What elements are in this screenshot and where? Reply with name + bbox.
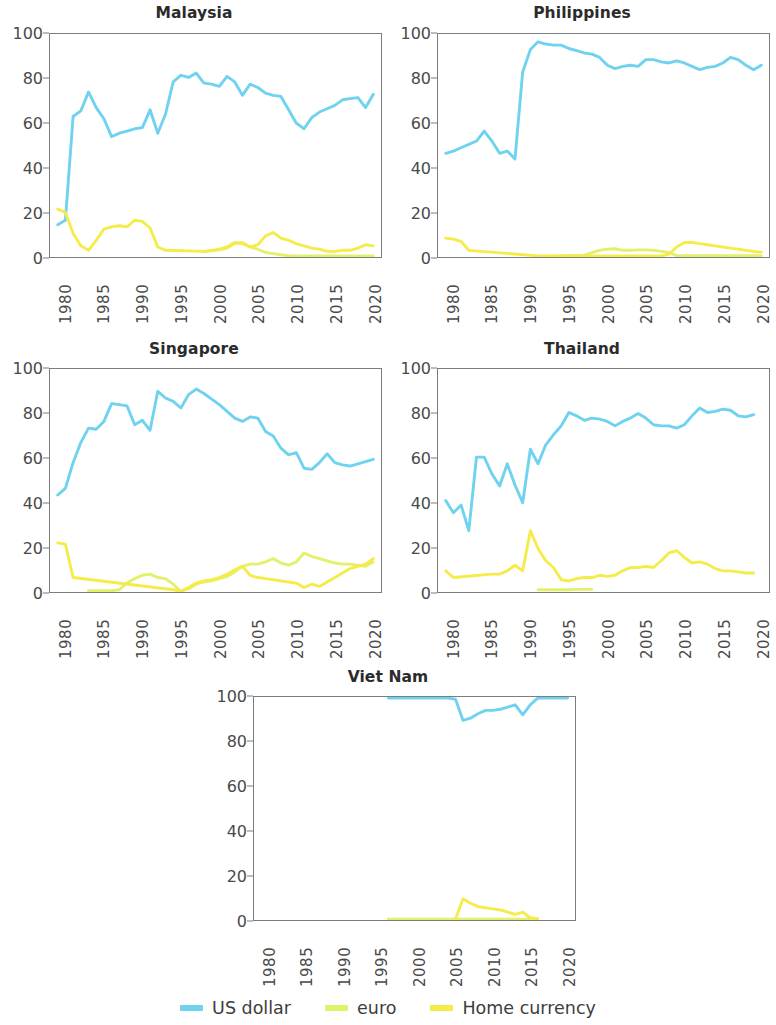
series-line-home-currency bbox=[446, 238, 762, 256]
plot-frame-singapore bbox=[49, 368, 382, 593]
y-tick-mark bbox=[431, 458, 437, 459]
series-line-us-dollar bbox=[388, 698, 567, 720]
y-tick-mark bbox=[431, 593, 437, 594]
x-tick-label: 2020 bbox=[755, 619, 773, 659]
y-tick-mark bbox=[43, 503, 49, 504]
y-tick-label: 0 bbox=[33, 249, 43, 268]
y-tick-label: 100 bbox=[12, 24, 43, 43]
x-tick-label: 1985 bbox=[483, 619, 501, 659]
x-tick-label: 1980 bbox=[445, 284, 463, 324]
series-line-us-dollar bbox=[446, 42, 762, 159]
y-tick-mark bbox=[431, 548, 437, 549]
plot-area-viet-nam: 0204060801001980198519901995200020052010… bbox=[253, 696, 576, 921]
x-tick-label: 2010 bbox=[289, 619, 307, 659]
legend-label-euro: euro bbox=[357, 998, 396, 1018]
y-tick-label: 60 bbox=[23, 449, 43, 468]
x-tick-label: 1985 bbox=[95, 619, 113, 659]
x-tick-label: 1990 bbox=[336, 947, 354, 987]
y-tick-mark bbox=[43, 123, 49, 124]
legend-item-euro[interactable]: euro bbox=[325, 998, 396, 1018]
y-tick-mark bbox=[247, 921, 253, 922]
x-tick-label: 1985 bbox=[95, 284, 113, 324]
plot-frame-thailand bbox=[437, 368, 770, 593]
y-tick-mark bbox=[43, 168, 49, 169]
series-line-home-currency bbox=[58, 543, 374, 591]
y-tick-mark bbox=[431, 123, 437, 124]
y-tick-label: 0 bbox=[421, 584, 431, 603]
x-tick-label: 2005 bbox=[250, 619, 268, 659]
x-tick-label: 1990 bbox=[134, 619, 152, 659]
x-tick-label: 1990 bbox=[522, 284, 540, 324]
x-tick-label: 2005 bbox=[638, 284, 656, 324]
y-tick-label: 80 bbox=[23, 404, 43, 423]
x-tick-label: 2000 bbox=[212, 619, 230, 659]
plot-area-thailand: 0204060801001980198519901995200020052010… bbox=[437, 368, 770, 593]
legend-item-home-currency[interactable]: Home currency bbox=[430, 998, 596, 1018]
legend-swatch-us-dollar bbox=[180, 1005, 203, 1011]
y-tick-mark bbox=[247, 786, 253, 787]
plot-frame-malaysia bbox=[49, 33, 382, 258]
x-tick-label: 1995 bbox=[561, 284, 579, 324]
x-tick-label: 1990 bbox=[522, 619, 540, 659]
x-tick-label: 2005 bbox=[638, 619, 656, 659]
x-tick-label: 2005 bbox=[448, 947, 466, 987]
legend-swatch-euro bbox=[325, 1005, 348, 1011]
y-tick-mark bbox=[431, 78, 437, 79]
y-tick-label: 20 bbox=[227, 867, 247, 886]
series-line-us-dollar bbox=[58, 73, 374, 225]
y-tick-label: 100 bbox=[12, 359, 43, 378]
x-tick-label: 1995 bbox=[373, 947, 391, 987]
y-tick-mark bbox=[431, 168, 437, 169]
plot-svg-philippines bbox=[438, 34, 769, 257]
series-line-home-currency bbox=[446, 531, 754, 581]
y-tick-label: 40 bbox=[411, 159, 431, 178]
x-tick-label: 1980 bbox=[445, 619, 463, 659]
x-tick-label: 2020 bbox=[755, 284, 773, 324]
y-tick-mark bbox=[43, 213, 49, 214]
y-tick-label: 100 bbox=[216, 687, 247, 706]
legend-item-us-dollar[interactable]: US dollar bbox=[180, 998, 291, 1018]
y-tick-label: 60 bbox=[411, 114, 431, 133]
y-tick-mark bbox=[431, 258, 437, 259]
x-tick-label: 2000 bbox=[212, 284, 230, 324]
x-tick-label: 1995 bbox=[173, 619, 191, 659]
x-tick-label: 2020 bbox=[367, 284, 385, 324]
y-tick-label: 80 bbox=[411, 404, 431, 423]
panel-title-malaysia: Malaysia bbox=[0, 4, 388, 22]
y-tick-label: 40 bbox=[23, 159, 43, 178]
panel-title-viet-nam: Viet Nam bbox=[194, 668, 582, 686]
x-tick-label: 1985 bbox=[298, 947, 316, 987]
x-tick-label: 2015 bbox=[716, 619, 734, 659]
y-tick-mark bbox=[43, 258, 49, 259]
x-tick-label: 2010 bbox=[677, 619, 695, 659]
legend-label-home-currency: Home currency bbox=[462, 998, 596, 1018]
plot-frame-viet-nam bbox=[253, 696, 576, 921]
x-tick-label: 1990 bbox=[134, 284, 152, 324]
y-tick-label: 20 bbox=[411, 539, 431, 558]
plot-svg-thailand bbox=[438, 369, 769, 592]
y-tick-label: 60 bbox=[227, 777, 247, 796]
y-tick-label: 60 bbox=[411, 449, 431, 468]
y-tick-label: 100 bbox=[400, 359, 431, 378]
panel-thailand: Thailand 0204060801001980198519901995200… bbox=[388, 330, 776, 660]
panel-viet-nam: Viet Nam 0204060801001980198519901995200… bbox=[194, 660, 582, 990]
y-tick-mark bbox=[431, 213, 437, 214]
plot-frame-philippines bbox=[437, 33, 770, 258]
panel-title-thailand: Thailand bbox=[388, 340, 776, 358]
y-tick-mark bbox=[431, 368, 437, 369]
x-tick-label: 1995 bbox=[173, 284, 191, 324]
y-tick-mark bbox=[431, 413, 437, 414]
x-tick-label: 2015 bbox=[716, 284, 734, 324]
plot-area-singapore: 0204060801001980198519901995200020052010… bbox=[49, 368, 382, 593]
y-tick-label: 40 bbox=[227, 822, 247, 841]
x-tick-label: 1980 bbox=[57, 619, 75, 659]
y-tick-mark bbox=[43, 368, 49, 369]
y-tick-mark bbox=[43, 413, 49, 414]
x-tick-label: 2015 bbox=[328, 284, 346, 324]
series-line-us-dollar bbox=[446, 408, 754, 531]
y-tick-label: 20 bbox=[23, 539, 43, 558]
y-tick-label: 40 bbox=[23, 494, 43, 513]
x-tick-label: 2000 bbox=[600, 619, 618, 659]
y-tick-mark bbox=[43, 33, 49, 34]
legend-label-us-dollar: US dollar bbox=[212, 998, 291, 1018]
